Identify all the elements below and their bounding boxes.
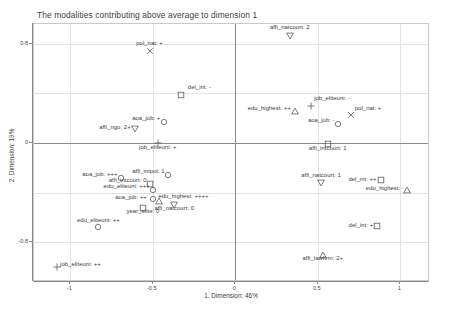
x-tick-label: -1 bbox=[67, 285, 72, 291]
data-point-label: affi_intcourt: 1 bbox=[309, 145, 347, 151]
data-point-label: aoa_job: - bbox=[308, 117, 335, 123]
x-tick-label: 1 bbox=[398, 285, 401, 291]
data-point-label: job_eliteuni: - bbox=[314, 95, 350, 101]
data-point-label: affi_intpol: 1 bbox=[132, 168, 164, 174]
data-point-label: aoa_job: +++ bbox=[82, 171, 117, 177]
origin-line-horizontal bbox=[34, 143, 428, 144]
triangle-up-marker-icon bbox=[291, 107, 299, 114]
circle-marker-icon bbox=[149, 187, 156, 194]
y-axis-line bbox=[32, 23, 33, 281]
circle-marker-icon bbox=[334, 121, 341, 128]
y-tick-mark bbox=[29, 241, 32, 242]
data-point-label: del_int: ++ bbox=[348, 176, 376, 182]
square-marker-icon bbox=[377, 177, 384, 184]
plot-area: affi_natcourt: 2pol_nat: +del_int: -job_… bbox=[33, 23, 429, 281]
data-point-label: affi_intcourt: 0 bbox=[109, 177, 147, 183]
x-tick-mark bbox=[69, 281, 70, 284]
x-tick-mark bbox=[234, 281, 235, 284]
y-axis-label: 2. Dimension: 19% bbox=[8, 121, 15, 191]
data-point-label: edu_highest: - bbox=[366, 185, 404, 191]
data-point-label: del_int: - bbox=[188, 84, 211, 90]
data-point-label: edu_highest: ++++ bbox=[158, 193, 208, 199]
data-point-label: affi_ngo: 2+ bbox=[99, 124, 130, 130]
plus-marker-icon bbox=[307, 102, 315, 110]
gridline-horizontal bbox=[34, 242, 428, 243]
triangle-down-marker-icon bbox=[131, 126, 139, 133]
y-tick-mark bbox=[29, 142, 32, 143]
gridline-horizontal bbox=[34, 44, 428, 45]
data-point-label: edu_highest: ++ bbox=[248, 105, 291, 111]
x-axis-label: 1. Dimension: 46% bbox=[204, 292, 258, 299]
x-tick-mark bbox=[317, 281, 318, 284]
x-tick-label: -0.5 bbox=[147, 285, 157, 291]
data-point-label: pol_nat: + bbox=[355, 105, 382, 111]
y-tick-mark bbox=[29, 43, 32, 44]
square-marker-icon bbox=[374, 223, 381, 230]
data-point-label: edu_eliteuni: ++ bbox=[77, 217, 120, 223]
triangle-up-marker-icon bbox=[403, 187, 411, 194]
square-marker-icon bbox=[177, 91, 184, 98]
x-tick-mark bbox=[152, 281, 153, 284]
data-point-label: pol_nat: + bbox=[136, 40, 163, 46]
x-tick-mark bbox=[399, 281, 400, 284]
x-tick-label: 0.5 bbox=[313, 285, 321, 291]
triangle-down-marker-icon bbox=[317, 179, 325, 186]
data-point-label: affi_natcourt: 1 bbox=[301, 172, 341, 178]
circle-marker-icon bbox=[164, 172, 171, 179]
data-point-label: affi_lawfirm: 2+ bbox=[303, 255, 343, 261]
data-point-label: job_eliteuni: + bbox=[139, 144, 176, 150]
x-tick-label: 0 bbox=[233, 285, 236, 291]
data-point-label: aoa_job: ++ bbox=[115, 194, 147, 200]
x-marker-icon bbox=[347, 111, 354, 118]
y-tick-label: -0.8 bbox=[8, 238, 28, 244]
data-point-label: edu_eliteuni: +++ bbox=[104, 183, 150, 189]
data-point-label: affi_natcourt: 0 bbox=[154, 205, 194, 211]
origin-line-vertical bbox=[235, 24, 236, 280]
chart-container: The modalities contributing above averag… bbox=[0, 0, 463, 311]
data-point-label: del_int: + bbox=[349, 222, 374, 228]
chart-title: The modalities contributing above averag… bbox=[37, 10, 257, 20]
data-point-label: job_eliteuni: ++ bbox=[60, 261, 101, 267]
circle-marker-icon bbox=[95, 224, 102, 231]
circle-marker-icon bbox=[161, 118, 168, 125]
data-point-label: aoa_job: + bbox=[132, 115, 160, 121]
gridline-horizontal bbox=[34, 193, 428, 194]
gridline-horizontal bbox=[34, 93, 428, 94]
y-tick-label: 0.8 bbox=[8, 40, 28, 46]
x-axis-line bbox=[33, 281, 429, 282]
data-point-label: affi_natcourt: 2 bbox=[270, 24, 310, 30]
triangle-down-marker-icon bbox=[286, 33, 294, 40]
x-marker-icon bbox=[146, 48, 153, 55]
